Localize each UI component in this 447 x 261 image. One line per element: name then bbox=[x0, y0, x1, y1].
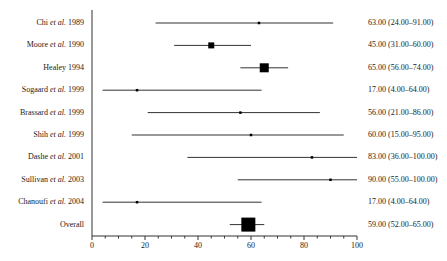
study-value: 83.00 (36.00–100.00) bbox=[368, 152, 437, 162]
x-tick-label: 40 bbox=[186, 241, 210, 251]
point-estimate-marker bbox=[250, 134, 253, 137]
study-value: 56.00 (21.00–86.00) bbox=[368, 108, 433, 118]
point-estimate-marker bbox=[258, 22, 261, 25]
point-estimate-marker bbox=[208, 42, 214, 48]
study-label: Brassard et al. 1999 bbox=[0, 108, 84, 118]
study-value: 45.00 (31.00–60.00) bbox=[368, 40, 433, 50]
study-label: Dashe et al. 2001 bbox=[0, 152, 84, 162]
study-value: 60.00 (15.00–95.00) bbox=[368, 130, 433, 140]
point-estimate-marker bbox=[329, 179, 332, 182]
overall-estimate-marker bbox=[241, 218, 255, 232]
forest-plot: 020406080100Chi et al. 198963.00 (24.00–… bbox=[0, 0, 447, 261]
point-estimate-marker bbox=[136, 89, 139, 92]
point-estimate-marker bbox=[239, 111, 242, 114]
point-estimate-marker bbox=[311, 156, 314, 159]
x-tick-label: 80 bbox=[292, 241, 316, 251]
overall-value: 59.00 (52.00–65.00) bbox=[368, 220, 433, 230]
study-value: 17.00 (4.00–64.00) bbox=[368, 85, 429, 95]
study-label: Sullivan et al. 2003 bbox=[0, 175, 84, 185]
x-tick-label: 100 bbox=[345, 241, 369, 251]
study-value: 90.00 (55.00–100.00) bbox=[368, 175, 437, 185]
point-estimate-marker bbox=[136, 201, 139, 204]
study-label: Chanoufi et al. 2004 bbox=[0, 197, 84, 207]
study-label: Shih et al. 1999 bbox=[0, 130, 84, 140]
x-tick-label: 0 bbox=[80, 241, 104, 251]
study-label: Moore et al. 1990 bbox=[0, 40, 84, 50]
study-label: Healey 1994 bbox=[0, 63, 84, 73]
study-label: Sogaard et al. 1999 bbox=[0, 85, 84, 95]
overall-label: Overall bbox=[0, 220, 84, 230]
study-value: 65.00 (56.00–74.00) bbox=[368, 63, 433, 73]
x-tick-label: 20 bbox=[133, 241, 157, 251]
study-value: 17.00 (4.00–64.00) bbox=[368, 197, 429, 207]
study-label: Chi et al. 1989 bbox=[0, 18, 84, 28]
point-estimate-marker bbox=[260, 63, 269, 72]
study-value: 63.00 (24.00–91.00) bbox=[368, 18, 433, 28]
x-tick-label: 60 bbox=[239, 241, 263, 251]
